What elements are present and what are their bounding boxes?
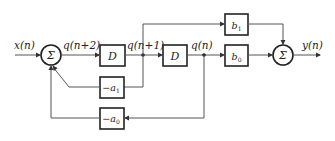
- input-summer-symbol: Σ: [46, 49, 55, 62]
- label-q-n-plus-2: q(n+2): [63, 39, 100, 51]
- diagram-svg: x(n) Σ q(n+2) D q(n+1) D q(n): [0, 0, 335, 141]
- wire-minus-a0-to-sum: [51, 67, 100, 118]
- wire-b1-to-sum: [248, 24, 283, 44]
- output-summer-symbol: Σ: [278, 49, 287, 62]
- label-q-n-plus-1: q(n+1): [127, 39, 164, 51]
- wire-to-minus-a1: [124, 55, 143, 87]
- arrow-head: [316, 53, 321, 58]
- label-x-n: x(n): [14, 39, 35, 51]
- label-y-n: y(n): [301, 39, 323, 51]
- block-diagram: x(n) Σ q(n+2) D q(n+1) D q(n): [0, 0, 335, 141]
- wire-minus-a1-to-sum: [53, 67, 100, 87]
- delay-block-2-label: D: [170, 50, 180, 63]
- delay-block-1-label: D: [107, 50, 117, 63]
- label-q-n: q(n): [191, 39, 213, 51]
